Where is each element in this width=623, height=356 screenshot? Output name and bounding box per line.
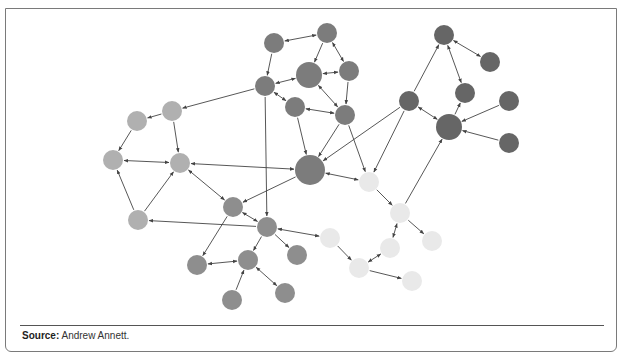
graph-edge — [148, 114, 162, 118]
graph-edge — [370, 271, 402, 279]
graph-node — [359, 172, 379, 192]
source-divider — [20, 325, 604, 326]
graph-edge — [203, 216, 227, 255]
graph-edge — [191, 164, 294, 170]
graph-node — [436, 114, 462, 140]
graph-edge — [145, 172, 174, 211]
network-graph — [0, 0, 623, 356]
graph-node — [287, 245, 307, 265]
graph-edge — [418, 107, 437, 119]
graph-node — [402, 271, 422, 291]
graph-node — [499, 91, 519, 111]
graph-node — [399, 91, 419, 111]
graph-edge — [323, 72, 338, 74]
graph-node — [285, 97, 305, 117]
graph-edge — [208, 261, 237, 264]
graph-edge — [267, 54, 271, 75]
graph-edge — [453, 41, 480, 57]
source-label: Source: — [22, 330, 59, 341]
graph-edge — [338, 246, 352, 260]
graph-edge — [174, 122, 179, 152]
graph-edge — [243, 177, 296, 202]
graph-node — [434, 25, 454, 45]
graph-edge — [414, 45, 439, 92]
graph-node — [455, 83, 475, 103]
graph-edge — [188, 170, 224, 200]
graph-node — [238, 250, 258, 270]
graph-node — [499, 133, 519, 153]
graph-edge — [242, 213, 257, 222]
graph-node — [317, 23, 337, 43]
graph-edge — [285, 35, 316, 41]
graph-node — [275, 283, 295, 303]
graph-edge — [236, 270, 244, 290]
graph-edge — [318, 85, 337, 106]
graph-node — [162, 101, 182, 121]
graph-node — [295, 155, 325, 185]
graph-edge — [298, 118, 307, 155]
graph-node — [255, 76, 275, 96]
graph-node — [422, 231, 442, 251]
graph-edge — [256, 267, 277, 285]
graph-node — [128, 210, 148, 230]
graph-edge — [315, 43, 323, 62]
graph-edge — [374, 111, 404, 172]
graph-edge — [448, 45, 462, 82]
graph-edge — [306, 109, 334, 114]
graph-edge — [276, 78, 296, 83]
graph-edge — [278, 229, 319, 236]
graph-node — [380, 238, 400, 258]
graph-node — [127, 111, 147, 131]
graph-node — [296, 62, 322, 88]
graph-edge — [119, 130, 131, 150]
graph-node — [349, 258, 369, 278]
graph-node — [264, 33, 284, 53]
graph-edge — [149, 221, 256, 227]
graph-edge — [326, 173, 359, 180]
graph-edge — [462, 105, 499, 121]
graph-edge — [368, 254, 381, 262]
graph-nodes — [103, 23, 519, 310]
graph-node — [257, 217, 277, 237]
graph-edge — [346, 82, 348, 104]
source-text: Andrew Annett. — [59, 330, 129, 341]
graph-edge — [274, 92, 286, 100]
graph-edge — [333, 43, 344, 62]
graph-node — [390, 203, 410, 223]
graph-node — [187, 255, 207, 275]
graph-node — [339, 61, 359, 81]
graph-edge — [323, 107, 400, 161]
graph-edge — [183, 89, 255, 108]
graph-node — [170, 153, 190, 173]
graph-edge — [455, 103, 460, 114]
graph-node — [222, 290, 242, 310]
graph-node — [480, 52, 500, 72]
graph-edge — [253, 237, 261, 251]
graph-node — [103, 150, 123, 170]
graph-edge — [408, 220, 423, 234]
graph-edge — [463, 131, 499, 141]
graph-edge — [265, 97, 267, 216]
source-caption: Source: Andrew Annett. — [22, 330, 129, 341]
graph-edge — [275, 235, 289, 248]
graph-edge — [377, 190, 392, 205]
graph-node — [335, 105, 355, 125]
graph-edge — [124, 160, 169, 162]
graph-edge — [393, 224, 397, 238]
graph-node — [320, 228, 340, 248]
graph-node — [223, 197, 243, 217]
graph-edge — [405, 139, 442, 203]
graph-edge — [117, 170, 134, 210]
graph-edge — [349, 125, 366, 171]
